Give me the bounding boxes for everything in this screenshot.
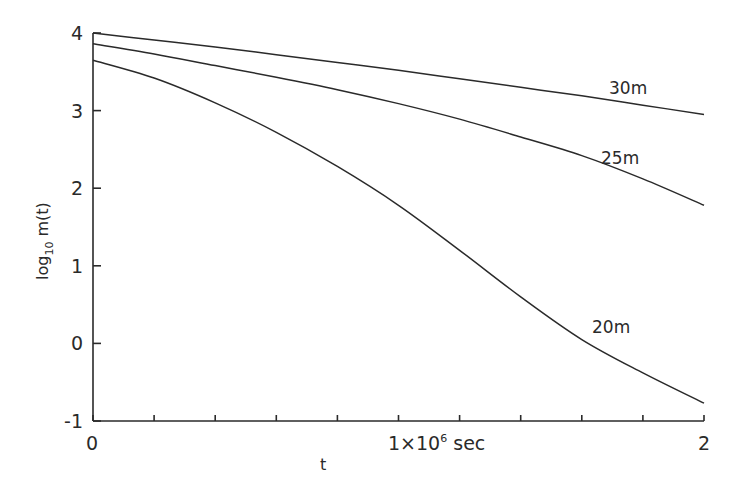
y-tick-labels: -101234 [64, 22, 83, 432]
y-tick-label: 2 [71, 177, 83, 199]
curve-20m [93, 60, 704, 403]
y-axis-title: log10 m(t) [33, 202, 56, 280]
curve-25m [93, 44, 704, 205]
chart-canvas: -101234 30m 25m 20m 0 1×106 sec 2 t log1… [0, 0, 737, 494]
x-tick-label-1e6: 1×106 sec [388, 432, 485, 454]
y-tick-label: 4 [71, 22, 83, 44]
label-20m: 20m [592, 317, 630, 337]
x-tick-label-0: 0 [86, 432, 98, 454]
label-25m: 25m [601, 148, 639, 168]
curve-30m [93, 33, 704, 114]
x-tick-label-2: 2 [698, 432, 710, 454]
label-30m: 30m [609, 78, 647, 98]
y-tick-label: 3 [71, 100, 83, 122]
x-axis-title: t [320, 455, 326, 474]
y-tick-label: 0 [71, 332, 83, 354]
y-tick-label: -1 [64, 410, 83, 432]
y-tick-label: 1 [71, 255, 83, 277]
